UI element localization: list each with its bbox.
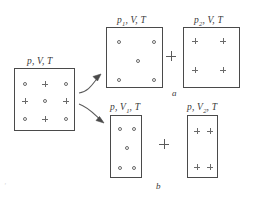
label-symbol-t: T xyxy=(218,15,223,25)
label-symbol-t: T xyxy=(135,102,140,112)
particle-circle xyxy=(115,163,125,173)
particle-circle xyxy=(129,163,139,173)
particle-plus xyxy=(205,126,215,136)
gas-box-partial-pressure-1 xyxy=(106,27,163,88)
particle-circle xyxy=(149,75,159,85)
particle-circle xyxy=(61,79,71,89)
particle-circle xyxy=(114,37,124,47)
box-label-partial-pressure-1: p1, V, T xyxy=(117,15,146,27)
figure-canvas: p, V, T p1, V, T p2, V, T a p, V1, T xyxy=(0,0,255,206)
box-label-partial-pressure-2: p2, V, T xyxy=(194,15,223,27)
particle-plus xyxy=(192,126,202,136)
particle-circle xyxy=(114,75,124,85)
box-label-mixture: p, V, T xyxy=(27,56,53,66)
particle-circle xyxy=(133,56,143,66)
particle-circle xyxy=(122,143,132,153)
gas-box-mixture xyxy=(14,68,75,131)
particle-plus xyxy=(40,114,50,124)
label-symbol-t: T xyxy=(141,15,146,25)
particle-circle xyxy=(20,79,30,89)
box-label-partial-volume-2: p, V2, T xyxy=(187,102,217,114)
particle-plus xyxy=(218,36,228,46)
particle-circle xyxy=(115,124,125,134)
box-label-partial-volume-1: p, V1, T xyxy=(110,102,140,114)
plus-operator-bottom xyxy=(158,138,170,150)
particle-plus xyxy=(190,36,200,46)
particle-circle xyxy=(20,114,30,124)
particle-circle xyxy=(149,37,159,47)
plus-operator-top xyxy=(165,50,177,62)
particle-circle xyxy=(61,114,71,124)
case-label-a: a xyxy=(172,88,177,98)
particle-plus xyxy=(190,65,200,75)
particle-plus xyxy=(218,65,228,75)
particle-plus xyxy=(40,79,50,89)
particle-plus xyxy=(192,162,202,172)
case-label-b: b xyxy=(156,181,161,191)
label-symbol-t: T xyxy=(47,56,52,66)
particle-circle xyxy=(40,96,50,106)
particle-plus xyxy=(61,96,71,106)
gas-box-partial-pressure-2 xyxy=(183,27,240,88)
label-symbol-t: T xyxy=(212,102,217,112)
gas-box-partial-volume-1 xyxy=(110,115,142,178)
arrow-to-case-a xyxy=(79,74,101,93)
scan-artifact-mark: ' xyxy=(4,182,6,191)
particle-circle xyxy=(129,124,139,134)
particle-plus xyxy=(205,162,215,172)
particle-plus xyxy=(20,96,30,106)
arrow-to-case-b xyxy=(79,104,104,123)
gas-box-partial-volume-2 xyxy=(187,115,218,178)
